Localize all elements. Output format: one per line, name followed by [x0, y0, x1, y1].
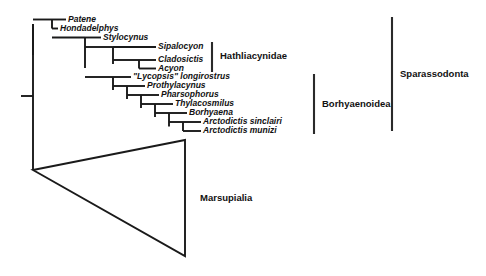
taxon-label-sipalocyon: Sipalocyon	[158, 41, 203, 51]
marsupialia-triangle: Marsupialia	[33, 140, 253, 256]
clade-label-hathliacynidae: Hathliacynidae	[220, 50, 287, 61]
marsupialia-label: Marsupialia	[200, 192, 253, 203]
taxon-label-group: PateneHondadelphysStylocynusSipalocyonCl…	[60, 14, 283, 136]
marsupialia-triangle-shape	[33, 140, 185, 256]
clade-label-sparassodonta: Sparassodonta	[400, 68, 469, 79]
taxon-label-stylocynus: Stylocynus	[103, 32, 149, 42]
cladogram-figure: Marsupialia PateneHondadelphysStylocynus…	[0, 0, 486, 276]
taxon-label-arctodictis_munizi: Arctodictis munizi	[202, 125, 277, 135]
clade-label-borhyaenoidea: Borhyaenoidea	[322, 98, 391, 109]
cladogram-canvas: Marsupialia PateneHondadelphysStylocynus…	[0, 0, 486, 276]
